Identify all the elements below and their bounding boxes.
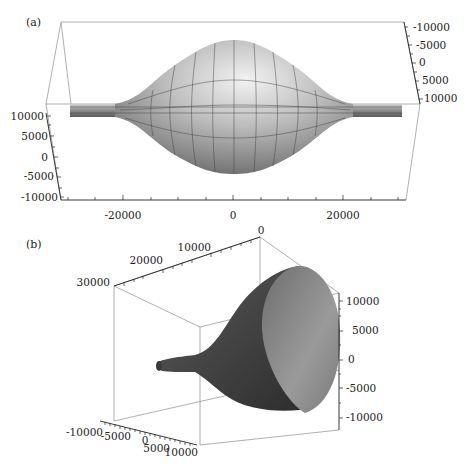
panel-b-top-tick-label: 0 [258, 224, 265, 236]
panel-a-left-tick-label: 10000 [11, 110, 44, 122]
panel-b-label: (b) [26, 238, 42, 251]
panel-a-x-tick-label: 20000 [326, 209, 359, 221]
panel-a-left-tick-label: -5000 [24, 170, 54, 182]
panel-a-x-ticks [68, 195, 398, 200]
panel-a-left-tick-label: -10000 [21, 191, 58, 203]
panel-b-top-tick-label: 10000 [178, 241, 211, 253]
panel-a-right-tick-label: 0 [419, 56, 426, 68]
panel-a-right-tick-label: -10000 [413, 21, 450, 33]
panel-a-x-tick-label: -20000 [105, 209, 142, 221]
panel-b-bottom-tick-label: 10000 [165, 446, 198, 458]
panel-a-left-tick-label: 5000 [21, 130, 48, 142]
panel-b-surface [156, 266, 340, 413]
panel-b-right-ticks [339, 301, 343, 418]
panel-b-bottom-tick-label: -5000 [101, 430, 131, 442]
panel-b-right-tick-label: 5000 [352, 324, 379, 336]
panel-a-surface [70, 40, 402, 174]
panel-a-left-tick-label: 0 [41, 151, 48, 163]
panel-b-right-tick-label: 10000 [346, 295, 379, 307]
panel-b-bottom-tick-label: -10000 [66, 426, 103, 438]
panel-a-right-tick-label: 5000 [422, 74, 449, 86]
panel-b-right-tick-label: 0 [348, 353, 355, 365]
panel-a-right-tick-label: -5000 [416, 39, 446, 51]
figure-canvas: (a) [0, 0, 473, 473]
panel-b-right-tick-label: -10000 [346, 411, 383, 423]
panel-a-right-tick-label: 10000 [424, 92, 457, 104]
panel-a-label: (a) [26, 16, 41, 29]
panel-a: (a) [11, 16, 458, 221]
panel-b-right-tick-label: -5000 [346, 382, 376, 394]
panel-a-x-tick-label: 0 [230, 209, 237, 221]
panel-b-top-tick-label: 30000 [77, 276, 110, 288]
panel-b-top-tick-label: 20000 [130, 254, 163, 266]
panel-a-left-axis [46, 113, 61, 200]
panel-b: (b) [26, 224, 383, 458]
